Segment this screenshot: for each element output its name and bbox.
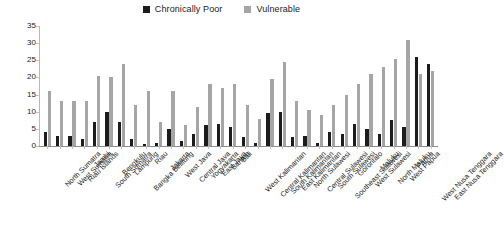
bar-chronically-poor bbox=[105, 112, 108, 146]
bar-chronically-poor bbox=[192, 134, 195, 146]
bar-chronically-poor bbox=[217, 124, 220, 146]
bar-vulnerable bbox=[72, 101, 75, 146]
bar-group bbox=[326, 26, 338, 146]
x-axis-line bbox=[39, 146, 438, 147]
x-axis-tick-mark bbox=[84, 146, 85, 149]
bar-chronically-poor bbox=[341, 134, 344, 146]
bar-group bbox=[66, 26, 78, 146]
bar-group bbox=[177, 26, 189, 146]
chart-legend: Chronically Poor Vulnerable bbox=[0, 2, 443, 16]
y-axis-tick-label: 20 bbox=[27, 73, 36, 81]
bar-vulnerable bbox=[109, 77, 112, 146]
bar-chronically-poor bbox=[303, 136, 306, 146]
y-axis-tick-label: 15 bbox=[27, 91, 36, 99]
plot-area: 05101520253035 bbox=[0, 26, 443, 150]
bar-chronically-poor bbox=[56, 136, 59, 146]
bar-vulnerable bbox=[147, 91, 150, 146]
bar-vulnerable bbox=[85, 101, 88, 146]
y-axis: 05101520253035 bbox=[20, 26, 36, 146]
bar-group bbox=[227, 26, 239, 146]
bar-group bbox=[214, 26, 226, 146]
square-swatch-icon bbox=[143, 6, 150, 13]
x-axis-tick-label: West Nusa Tenggara bbox=[441, 150, 493, 202]
bar-group bbox=[412, 26, 424, 146]
bar-vulnerable bbox=[184, 125, 187, 146]
bar-vulnerable bbox=[382, 67, 385, 146]
bar-group bbox=[202, 26, 214, 146]
bar-vulnerable bbox=[208, 84, 211, 146]
bar-vulnerable bbox=[233, 84, 236, 146]
y-axis-tick-mark bbox=[36, 77, 39, 78]
bar-group bbox=[276, 26, 288, 146]
x-axis-tick-mark bbox=[196, 146, 197, 149]
x-axis-tick-mark bbox=[47, 146, 48, 149]
bar-chronically-poor bbox=[328, 132, 331, 146]
bar-group bbox=[313, 26, 325, 146]
y-axis-tick-mark bbox=[36, 26, 39, 27]
legend-label-chronically-poor: Chronically Poor bbox=[155, 5, 223, 14]
bar-vulnerable bbox=[332, 105, 335, 146]
bar-chronically-poor bbox=[229, 127, 232, 146]
bar-chronically-poor bbox=[118, 122, 121, 146]
bar-group bbox=[91, 26, 103, 146]
bar-group bbox=[289, 26, 301, 146]
bar-group bbox=[41, 26, 53, 146]
legend-entry-vulnerable: Vulnerable bbox=[244, 5, 300, 14]
bar-chronically-poor bbox=[402, 127, 405, 146]
bar-vulnerable bbox=[283, 62, 286, 146]
bar-chronically-poor bbox=[427, 64, 430, 146]
x-axis-tick-mark bbox=[72, 146, 73, 149]
bar-group bbox=[363, 26, 375, 146]
x-axis-tick-mark bbox=[208, 146, 209, 149]
x-axis-labels: North SumatraWest SumatraRiau IslandsJam… bbox=[41, 150, 437, 228]
bar-chronically-poor bbox=[390, 120, 393, 146]
legend-label-vulnerable: Vulnerable bbox=[256, 5, 300, 14]
x-axis-tick-mark bbox=[134, 146, 135, 149]
bar-group bbox=[338, 26, 350, 146]
y-axis-tick-label: 10 bbox=[27, 108, 36, 116]
bar-group bbox=[264, 26, 276, 146]
bar-chronically-poor bbox=[365, 129, 368, 146]
bar-group bbox=[400, 26, 412, 146]
bar-chronically-poor bbox=[44, 132, 47, 146]
x-axis-tick-mark bbox=[282, 146, 283, 149]
bar-vulnerable bbox=[270, 79, 273, 146]
x-axis-tick-mark bbox=[220, 146, 221, 149]
bar-group bbox=[251, 26, 263, 146]
bar-group bbox=[301, 26, 313, 146]
bar-group bbox=[425, 26, 437, 146]
bar-vulnerable bbox=[419, 74, 422, 146]
bar-chronically-poor bbox=[242, 137, 245, 146]
bar-chronically-poor bbox=[378, 134, 381, 146]
bar-vulnerable bbox=[48, 91, 51, 146]
bar-vulnerable bbox=[159, 122, 162, 146]
y-axis-tick-mark bbox=[36, 146, 39, 147]
bar-chronically-poor bbox=[68, 136, 71, 146]
x-axis-tick-mark bbox=[109, 146, 110, 149]
bar-vulnerable bbox=[60, 101, 63, 146]
bar-vulnerable bbox=[258, 119, 261, 146]
y-axis-tick-mark bbox=[36, 95, 39, 96]
bar-group bbox=[190, 26, 202, 146]
bar-group bbox=[128, 26, 140, 146]
bar-group bbox=[165, 26, 177, 146]
x-axis-tick-mark bbox=[97, 146, 98, 149]
y-axis-tick-label: 25 bbox=[27, 56, 36, 64]
bars-container bbox=[41, 26, 437, 146]
bar-vulnerable bbox=[134, 105, 137, 146]
x-axis-tick-mark bbox=[60, 146, 61, 149]
bar-chronically-poor bbox=[167, 129, 170, 146]
bar-group bbox=[388, 26, 400, 146]
x-axis-tick-mark bbox=[307, 146, 308, 149]
y-axis-tick-mark bbox=[36, 43, 39, 44]
x-axis-tick-mark bbox=[159, 146, 160, 149]
bar-vulnerable bbox=[295, 101, 298, 146]
bar-group bbox=[115, 26, 127, 146]
legend-entry-chronically-poor: Chronically Poor bbox=[143, 5, 223, 14]
bar-vulnerable bbox=[221, 88, 224, 146]
y-axis-tick-mark bbox=[36, 129, 39, 130]
bar-vulnerable bbox=[171, 91, 174, 146]
x-axis-tick-mark bbox=[431, 146, 432, 149]
bar-vulnerable bbox=[307, 110, 310, 146]
bar-chronically-poor bbox=[93, 122, 96, 146]
